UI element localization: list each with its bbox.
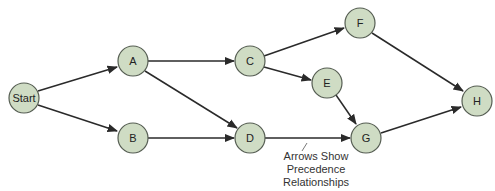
svg-text:B: B bbox=[129, 132, 136, 144]
node-b: B bbox=[118, 123, 148, 153]
svg-text:D: D bbox=[246, 132, 254, 144]
svg-text:A: A bbox=[129, 55, 137, 67]
annotation-line-1: Arrows Show bbox=[266, 150, 366, 163]
edge-g-h bbox=[381, 107, 461, 133]
svg-text:H: H bbox=[473, 95, 481, 107]
edge-start-b bbox=[38, 105, 117, 131]
node-start: Start bbox=[9, 83, 39, 113]
node-a: A bbox=[118, 46, 148, 76]
edge-e-g bbox=[336, 95, 356, 124]
svg-text:E: E bbox=[323, 77, 330, 89]
edge-a-d bbox=[145, 71, 237, 128]
annotation-line-3: Relationships bbox=[266, 176, 366, 189]
svg-text:Start: Start bbox=[12, 92, 35, 104]
svg-text:C: C bbox=[246, 55, 254, 67]
node-c: C bbox=[235, 46, 265, 76]
edge-c-e bbox=[264, 67, 311, 80]
node-f: F bbox=[345, 8, 375, 38]
precedence-annotation: Arrows Show Precedence Relationships bbox=[266, 150, 366, 189]
node-g: G bbox=[351, 123, 381, 153]
edge-c-f bbox=[264, 28, 344, 56]
edge-f-h bbox=[372, 33, 463, 91]
node-h: H bbox=[462, 86, 492, 116]
node-d: D bbox=[235, 123, 265, 153]
svg-text:F: F bbox=[357, 17, 364, 29]
edge-start-a bbox=[38, 67, 117, 91]
network-diagram: Start A B C D E F G H bbox=[0, 0, 495, 191]
svg-text:G: G bbox=[362, 132, 371, 144]
annotation-line-2: Precedence bbox=[266, 163, 366, 176]
node-e: E bbox=[312, 68, 342, 98]
